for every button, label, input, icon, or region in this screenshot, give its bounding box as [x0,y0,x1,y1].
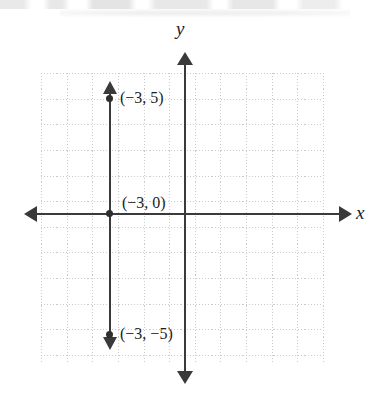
data-point-marker [106,95,113,102]
y-axis-line [184,62,186,374]
x-axis-right-arrow-icon [339,206,352,222]
y-axis-up-arrow-icon [177,52,193,65]
data-point-marker [106,210,113,217]
grid-line-horizontal [41,304,323,305]
plotted-line-up-arrow-icon [103,81,117,94]
x-axis-label: x [356,202,364,224]
grid-line-vertical [92,73,93,363]
grid-line-horizontal [41,73,323,74]
grid-line-vertical [272,73,273,363]
grid-line-horizontal [41,176,323,177]
grid-line-horizontal [41,99,323,100]
y-axis-label: y [176,18,184,40]
grid-line-vertical [220,73,221,363]
x-axis-line [33,213,349,215]
scan-artifact-blur [60,8,350,18]
graph-figure: (−3, 5) (−3, 0) (−3, −5) y x [0,0,389,405]
grid-line-horizontal [41,227,323,228]
data-point-marker [106,331,113,338]
point-label-bottom: (−3, −5) [120,326,173,342]
grid-line-vertical [67,73,68,363]
grid-line-vertical [323,73,324,363]
grid-line-vertical [144,73,145,363]
grid-line-horizontal [41,124,323,125]
grid-line-vertical [41,73,42,363]
point-label-top: (−3, 5) [120,90,164,106]
coordinate-grid [41,73,323,362]
grid-line-horizontal [41,329,323,330]
grid-line-vertical [246,73,247,363]
grid-line-horizontal [41,355,323,356]
grid-line-vertical [118,73,119,363]
grid-line-horizontal [41,150,323,151]
grid-line-horizontal [41,252,323,253]
x-axis-left-arrow-icon [24,206,37,222]
y-axis-down-arrow-icon [177,371,193,384]
grid-line-horizontal [41,278,323,279]
point-label-middle: (−3, 0) [122,195,166,211]
grid-line-vertical [195,73,196,363]
grid-line-vertical [297,73,298,363]
grid-line-horizontal [41,201,323,202]
plotted-line-down-arrow-icon [103,337,117,350]
grid-line-vertical [169,73,170,363]
